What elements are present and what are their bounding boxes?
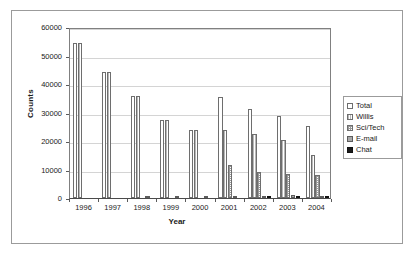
bar-e-mail-1999 <box>175 196 179 198</box>
x-axis-title: Year <box>12 217 342 226</box>
y-tick-label: 60000 <box>14 24 62 32</box>
bar-total-1996 <box>73 43 77 198</box>
bar-willis-2003 <box>281 140 285 198</box>
x-tick-label: 2003 <box>271 203 303 212</box>
legend-label: Willis <box>356 112 374 121</box>
y-tick-mark <box>66 57 69 58</box>
legend-swatch-icon <box>347 114 353 120</box>
x-tick-label: 2004 <box>300 203 332 212</box>
x-tick-mark <box>302 199 303 202</box>
bar-sci-tech-2003 <box>286 174 290 198</box>
bar-chat-2002 <box>267 196 271 198</box>
x-tick-mark <box>273 199 274 202</box>
x-tick-label: 1999 <box>155 203 187 212</box>
legend-swatch-icon <box>347 125 353 131</box>
bar-total-2001 <box>218 97 222 198</box>
bar-e-mail-2000 <box>204 196 208 198</box>
y-tick-label: 20000 <box>14 138 62 146</box>
gridline <box>70 29 330 30</box>
bar-e-mail-2002 <box>262 196 266 198</box>
x-tick-mark <box>127 199 128 202</box>
y-tick-mark <box>66 85 69 86</box>
bar-chat-2003 <box>296 196 300 198</box>
bar-sci-tech-2004 <box>315 175 319 198</box>
bar-total-2003 <box>277 116 281 198</box>
x-tick-mark <box>244 199 245 202</box>
x-tick-mark <box>156 199 157 202</box>
legend-label: Sci/Tech <box>356 123 384 132</box>
bar-total-1997 <box>102 72 106 198</box>
x-tick-mark <box>185 199 186 202</box>
bar-total-1999 <box>160 120 164 198</box>
bar-sci-tech-2001 <box>228 165 232 198</box>
y-tick-mark <box>66 28 69 29</box>
bar-willis-2004 <box>311 155 315 198</box>
bar-sci-tech-2002 <box>257 172 261 198</box>
x-tick-label: 1998 <box>126 203 158 212</box>
bar-willis-2001 <box>223 130 227 198</box>
bar-e-mail-1998 <box>145 196 149 198</box>
y-tick-label: 50000 <box>14 53 62 61</box>
x-tick-label: 2002 <box>242 203 274 212</box>
legend-item-willis: Willis <box>347 111 399 122</box>
legend-swatch-icon <box>347 147 353 153</box>
bar-total-2002 <box>248 109 252 198</box>
chart-figure: Counts Year 0100002000030000400005000060… <box>0 0 414 255</box>
legend-label: E-mail <box>356 134 377 143</box>
x-tick-label: 1997 <box>97 203 129 212</box>
y-tick-label: 10000 <box>14 167 62 175</box>
x-tick-label: 2001 <box>213 203 245 212</box>
bar-willis-1997 <box>107 72 111 198</box>
x-tick-mark <box>98 199 99 202</box>
legend-item-chat: Chat <box>347 144 399 155</box>
y-tick-label: 40000 <box>14 81 62 89</box>
x-tick-mark <box>69 199 70 202</box>
y-tick-label: 30000 <box>14 110 62 118</box>
bar-willis-1998 <box>136 96 140 198</box>
legend-swatch-icon <box>347 103 353 109</box>
plot-area <box>69 28 331 199</box>
bar-willis-2002 <box>252 134 256 198</box>
y-tick-mark <box>66 114 69 115</box>
legend-label: Total <box>356 101 372 110</box>
x-tick-label: 1996 <box>68 203 100 212</box>
legend-swatch-icon <box>347 136 353 142</box>
legend-item-sci-tech: Sci/Tech <box>347 122 399 133</box>
bar-willis-1999 <box>165 120 169 198</box>
bar-willis-2000 <box>194 130 198 198</box>
y-axis-title: Counts <box>26 69 35 139</box>
bar-e-mail-2003 <box>291 195 295 198</box>
chart-frame: Counts Year 0100002000030000400005000060… <box>11 10 403 244</box>
legend-label: Chat <box>356 145 372 154</box>
x-tick-label: 2000 <box>184 203 216 212</box>
bar-willis-1996 <box>78 43 82 198</box>
legend-item-total: Total <box>347 100 399 111</box>
chart-legend: TotalWillisSci/TechE-mailChat <box>343 96 402 159</box>
x-tick-mark <box>331 199 332 202</box>
gridline <box>70 58 330 59</box>
x-tick-mark <box>215 199 216 202</box>
legend-item-e-mail: E-mail <box>347 133 399 144</box>
bar-total-1998 <box>131 96 135 198</box>
y-tick-mark <box>66 171 69 172</box>
bar-chat-2004 <box>325 196 329 198</box>
y-tick-label: 0 <box>14 195 62 203</box>
bar-total-2004 <box>306 126 310 198</box>
bar-e-mail-2004 <box>320 196 324 198</box>
y-tick-mark <box>66 142 69 143</box>
bar-total-2000 <box>189 130 193 198</box>
bar-e-mail-2001 <box>233 196 237 198</box>
